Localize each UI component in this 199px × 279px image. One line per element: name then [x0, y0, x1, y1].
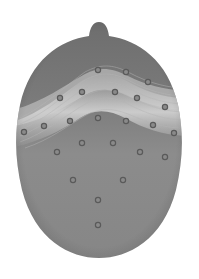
electrode-marker — [95, 197, 100, 202]
electrode-marker — [162, 104, 167, 109]
electrode-marker — [21, 129, 26, 134]
scalp-map-svg — [0, 0, 199, 279]
electrode-marker — [123, 69, 128, 74]
electrode-marker — [112, 89, 117, 94]
electrode-marker — [95, 115, 100, 120]
electrode-marker — [110, 140, 115, 145]
electrode-marker — [120, 177, 125, 182]
electrode-marker — [54, 149, 59, 154]
electrode-marker — [95, 222, 100, 227]
electrode-marker — [95, 67, 100, 72]
electrode-marker — [79, 89, 84, 94]
scalp-map-figure — [0, 0, 199, 279]
electrode-marker — [41, 123, 46, 128]
electrode-marker — [79, 140, 84, 145]
electrode-marker — [67, 118, 72, 123]
electrode-marker — [150, 122, 155, 127]
electrode-marker — [145, 79, 150, 84]
electrode-marker — [70, 177, 75, 182]
electrode-marker — [57, 95, 62, 100]
scalp-surface — [0, 0, 199, 279]
electrode-marker — [134, 95, 139, 100]
electrode-marker — [162, 154, 167, 159]
electrode-marker — [171, 130, 176, 135]
electrode-marker — [123, 118, 128, 123]
electrode-marker — [137, 149, 142, 154]
